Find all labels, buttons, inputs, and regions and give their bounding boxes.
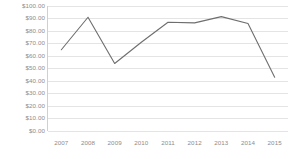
x-axis-tick-label: 2014 <box>241 140 255 146</box>
x-axis-tick-label: 2010 <box>134 140 148 146</box>
x-axis-tick-label: 2007 <box>54 140 68 146</box>
x-axis-tick-label: 2013 <box>214 140 228 146</box>
x-axis-tick-label: 2011 <box>161 140 175 146</box>
line-chart: $100.00$90.00$80.00$70.00$60.00$50.00$40… <box>0 0 292 159</box>
x-axis-tick-label: 2008 <box>81 140 95 146</box>
x-axis-tick-label: 2009 <box>108 140 122 146</box>
x-axis-tick-label: 2015 <box>268 140 282 146</box>
x-axis-tick-labels: 200720082009201020112012201320142015 <box>0 0 292 159</box>
x-axis-tick-label: 2012 <box>188 140 202 146</box>
